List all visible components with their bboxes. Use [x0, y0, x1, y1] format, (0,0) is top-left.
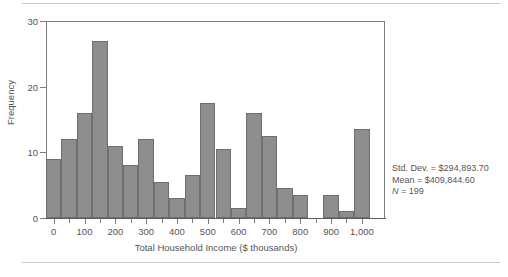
- histogram-bar: [277, 188, 292, 218]
- histogram-bar: [262, 136, 277, 218]
- x-axis-tick: [54, 219, 55, 224]
- y-axis-title: Frequency: [5, 63, 16, 143]
- x-axis-tick-label: 1,000: [339, 226, 385, 237]
- histogram-bar: [92, 41, 107, 218]
- histogram-bar: [154, 182, 169, 218]
- x-axis-tick: [131, 219, 132, 223]
- x-axis-tick: [177, 219, 178, 224]
- x-axis-tick: [223, 219, 224, 223]
- histogram-bar: [108, 146, 123, 218]
- x-axis-tick: [85, 219, 86, 224]
- histogram-bar: [293, 195, 308, 218]
- histogram-bar: [200, 103, 215, 218]
- histogram-bar: [46, 159, 61, 218]
- x-axis-tick: [362, 219, 363, 224]
- x-axis-tick: [239, 219, 240, 224]
- statistics-annotation: Std. Dev. = $294,893.70 Mean = $409,844.…: [392, 163, 489, 198]
- x-axis-tick: [269, 219, 270, 224]
- std-dev-line: Std. Dev. = $294,893.70: [392, 163, 489, 175]
- std-dev-label: Std. Dev. =: [392, 163, 439, 173]
- std-dev-value: $294,893.70: [439, 163, 489, 173]
- x-axis-tick: [100, 219, 101, 223]
- x-axis-tick: [254, 219, 255, 223]
- x-axis-tick: [285, 219, 286, 223]
- histogram-bar: [323, 195, 338, 218]
- histogram-bar: [123, 165, 138, 218]
- histogram-bar: [246, 113, 261, 218]
- x-axis-line: [46, 218, 386, 219]
- x-axis-tick: [115, 219, 116, 224]
- mean-line: Mean = $409,844.60: [392, 175, 489, 187]
- y-axis-tick-label: 30: [4, 16, 38, 27]
- n-line: N = 199: [392, 186, 489, 198]
- histogram-figure: 0102030 Frequency 0100200300400500600700…: [0, 0, 508, 277]
- plot-area: [46, 21, 385, 218]
- x-axis-title: Total Household Income ($ thousands): [46, 242, 386, 253]
- histogram-bar: [354, 129, 369, 218]
- x-axis-tick: [146, 219, 147, 224]
- page-rule-top: [22, 3, 500, 4]
- x-axis-tick: [69, 219, 70, 223]
- histogram-bar: [138, 139, 153, 218]
- x-axis-tick: [192, 219, 193, 223]
- histogram-bar: [185, 175, 200, 218]
- histogram-bars: [46, 21, 385, 218]
- x-axis-tick: [162, 219, 163, 223]
- histogram-bar: [169, 198, 184, 218]
- page-rule-bottom: [22, 262, 500, 263]
- x-axis-tick: [331, 219, 332, 224]
- x-axis-tick: [316, 219, 317, 223]
- y-axis-tick-label: 10: [4, 147, 38, 158]
- mean-value: $409,844.60: [425, 175, 475, 185]
- y-axis-tick-label: 0: [4, 213, 38, 224]
- x-axis-tick: [300, 219, 301, 224]
- n-value: = 199: [399, 186, 424, 196]
- histogram-bar: [231, 208, 246, 218]
- histogram-bar: [77, 113, 92, 218]
- histogram-bar: [61, 139, 76, 218]
- x-axis-tick: [208, 219, 209, 224]
- x-axis-tick: [346, 219, 347, 223]
- histogram-bar: [216, 149, 231, 218]
- mean-label: Mean =: [392, 175, 425, 185]
